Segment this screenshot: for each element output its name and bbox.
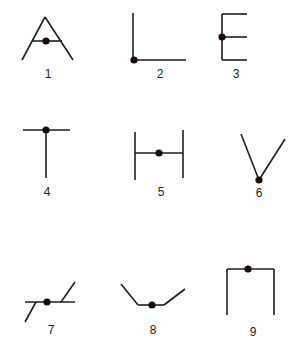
figure-line: [22, 17, 45, 60]
figure-number-label: 2: [157, 67, 164, 81]
figure-line: [121, 284, 138, 305]
dot-marker: [218, 33, 225, 40]
dot-marker: [255, 176, 262, 183]
figure-number-label: 5: [158, 185, 165, 199]
dot-marker: [148, 301, 155, 308]
figure-8-trough-shape: 8: [121, 284, 185, 337]
figure-4-T-shape: 4: [23, 126, 70, 199]
dot-marker: [155, 149, 162, 156]
dot-marker: [130, 56, 137, 63]
figure-line: [61, 282, 75, 302]
figure-9-inverted-U-shape: 9: [227, 265, 274, 339]
figure-number-label: 8: [150, 323, 157, 337]
figure-3-E-shape: 3: [218, 14, 247, 81]
figure-number-label: 9: [250, 325, 257, 339]
figure-line: [25, 302, 36, 322]
dot-marker: [42, 37, 49, 44]
figure-diagram: 123456789: [0, 0, 297, 353]
figure-number-label: 1: [45, 67, 52, 81]
dot-marker: [42, 126, 49, 133]
figure-7-Z-shape: 7: [25, 282, 75, 337]
dot-marker: [244, 265, 251, 272]
dot-marker: [43, 298, 50, 305]
figure-number-label: 4: [44, 185, 51, 199]
figure-line: [45, 17, 73, 60]
figure-number-label: 6: [256, 186, 263, 200]
figure-2-L-shape: 2: [130, 13, 186, 81]
figures-layer: 123456789: [22, 13, 285, 339]
figure-line: [164, 289, 185, 305]
figure-line: [241, 134, 259, 180]
figure-5-H-shape: 5: [135, 130, 183, 199]
figure-number-label: 3: [233, 67, 240, 81]
figure-number-label: 7: [48, 323, 55, 337]
figure-line: [259, 139, 285, 180]
figure-6-V-shape: 6: [241, 134, 285, 200]
figure-1-A-shape: 1: [22, 17, 73, 81]
